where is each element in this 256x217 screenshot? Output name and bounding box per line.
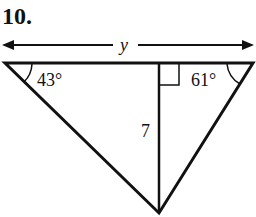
- altitude-label: 7: [141, 121, 150, 141]
- triangle-diagram: 10. y 43° 61° 7: [0, 0, 256, 217]
- arrowhead-left-icon: [2, 40, 14, 50]
- problem-number: 10.: [2, 3, 32, 29]
- angle-left-label: 43°: [37, 70, 62, 90]
- angle-right-label: 61°: [191, 70, 216, 90]
- arrowhead-right-icon: [242, 40, 254, 50]
- width-label: y: [118, 35, 128, 55]
- right-angle-mark: [159, 63, 179, 85]
- angle-arc-right: [227, 64, 240, 84]
- width-dimension-arrow: [2, 40, 254, 50]
- angle-arc-left: [24, 64, 32, 82]
